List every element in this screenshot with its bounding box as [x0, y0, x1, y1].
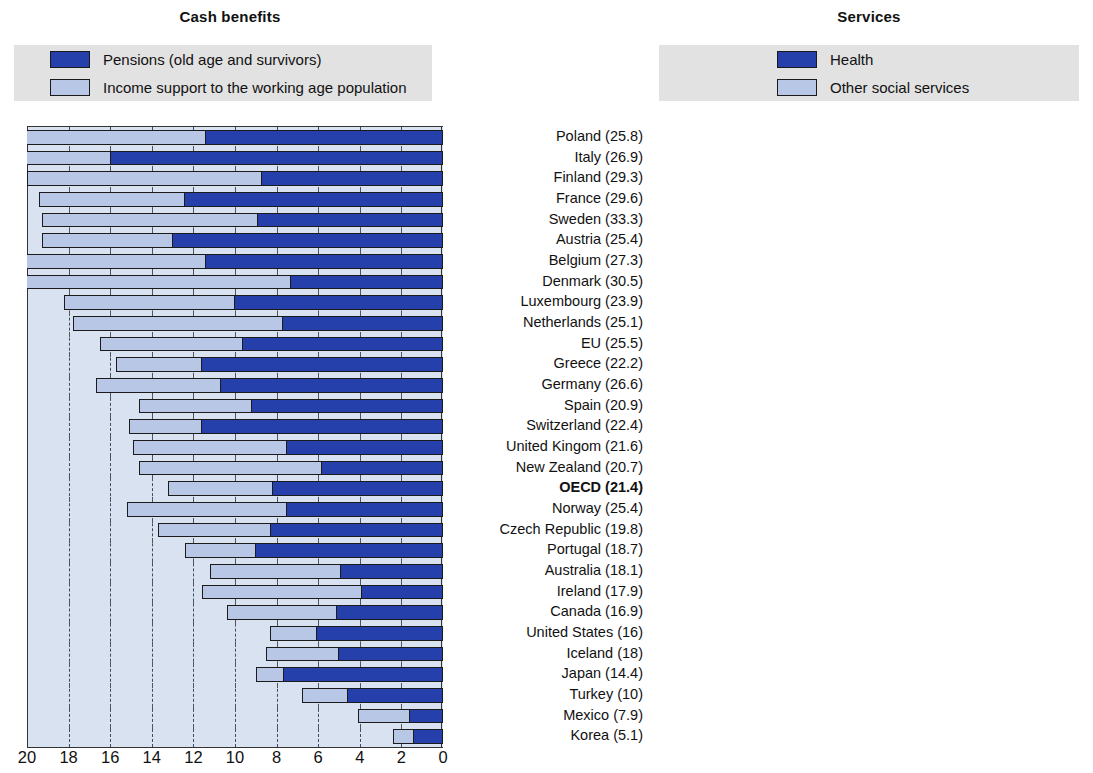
- bar-segment-income-support: [211, 565, 341, 578]
- stacked-bar[interactable]: [210, 564, 443, 579]
- stacked-bar[interactable]: [116, 357, 443, 372]
- cash-benefits-x-axis: 20181614121086420: [27, 748, 443, 773]
- country-label: Canada (16.9): [460, 601, 643, 622]
- stacked-bar[interactable]: [100, 337, 443, 352]
- stacked-bar[interactable]: [185, 543, 443, 558]
- axis-tick-mark: [110, 166, 111, 171]
- axis-tick-mark: [152, 724, 153, 729]
- axis-tick-mark: [318, 187, 319, 192]
- stacked-bar[interactable]: [202, 585, 443, 600]
- axis-tick-mark: [193, 332, 194, 337]
- axis-tick-mark: [193, 559, 194, 564]
- chart-row: [27, 664, 443, 685]
- axis-tick-mark: [110, 228, 111, 233]
- axis-tick-mark: [193, 456, 194, 461]
- stacked-bar[interactable]: [270, 626, 443, 641]
- axis-tick-mark: [235, 456, 236, 461]
- stacked-bar[interactable]: [266, 647, 443, 662]
- axis-tick-mark: [401, 146, 402, 151]
- stacked-bar[interactable]: [27, 254, 443, 269]
- axis-tick-mark: [360, 394, 361, 399]
- stacked-bar[interactable]: [133, 440, 443, 455]
- stacked-bar[interactable]: [256, 667, 443, 682]
- chart-row: [27, 375, 443, 396]
- cash-benefits-panel: Cash benefits Pensions (old age and surv…: [0, 0, 460, 773]
- stacked-bar[interactable]: [158, 523, 443, 538]
- axis-tick-mark: [235, 332, 236, 337]
- axis-tick-mark: [360, 704, 361, 709]
- axis-tick-mark: [318, 166, 319, 171]
- axis-tick-mark: [318, 270, 319, 275]
- axis-tick-mark: [401, 600, 402, 605]
- axis-tick-mark: [360, 600, 361, 605]
- axis-tick-mark: [152, 476, 153, 481]
- axis-tick-mark: [110, 394, 111, 399]
- axis-tick-mark: [318, 249, 319, 254]
- stacked-bar[interactable]: [96, 378, 443, 393]
- bar-segment-income-support: [134, 441, 287, 454]
- stacked-bar[interactable]: [227, 605, 443, 620]
- axis-tick-mark: [401, 270, 402, 275]
- chart-row: [27, 313, 443, 334]
- axis-tick-mark: [277, 270, 278, 275]
- axis-tick-mark: [152, 600, 153, 605]
- stacked-bar[interactable]: [27, 151, 443, 166]
- stacked-bar[interactable]: [129, 419, 443, 434]
- stacked-bar[interactable]: [64, 295, 443, 310]
- country-label: Finland (29.3): [460, 167, 643, 188]
- axis-tick-mark: [360, 187, 361, 192]
- stacked-bar[interactable]: [302, 688, 443, 703]
- axis-tick-mark: [110, 146, 111, 151]
- axis-tick-mark: [110, 249, 111, 254]
- axis-tick-mark: [69, 394, 70, 399]
- stacked-bar[interactable]: [42, 213, 443, 228]
- bar-segment-pensions: [202, 358, 442, 371]
- stacked-bar[interactable]: [73, 316, 443, 331]
- stacked-bar[interactable]: [139, 461, 443, 476]
- axis-tick-mark: [235, 208, 236, 213]
- axis-tick-mark: [110, 662, 111, 667]
- bar-segment-pensions: [317, 627, 442, 640]
- axis-tick-mark: [152, 146, 153, 151]
- axis-tick-mark: [318, 414, 319, 419]
- axis-tick-mark: [110, 332, 111, 337]
- stacked-bar[interactable]: [139, 399, 443, 414]
- axis-tick-mark: [110, 373, 111, 378]
- axis-tick-mark: [277, 311, 278, 316]
- stacked-bar[interactable]: [27, 130, 443, 145]
- stacked-bar[interactable]: [127, 502, 443, 517]
- country-label: Greece (22.2): [460, 353, 643, 374]
- chart-row: [27, 272, 443, 293]
- country-label: United States (16): [460, 622, 643, 643]
- country-label: Czech Republic (19.8): [460, 519, 643, 540]
- axis-tick-mark: [235, 228, 236, 233]
- stacked-bar[interactable]: [168, 481, 443, 496]
- stacked-bar[interactable]: [358, 709, 443, 724]
- axis-tick-mark: [401, 580, 402, 585]
- axis-tick-mark: [235, 704, 236, 709]
- bar-segment-pensions: [291, 276, 442, 289]
- axis-tick-label: 12: [184, 748, 202, 767]
- axis-tick-mark: [360, 538, 361, 543]
- country-label: United Kingom (21.6): [460, 436, 643, 457]
- axis-tick-mark: [360, 146, 361, 151]
- stacked-bar[interactable]: [27, 171, 443, 186]
- country-label: Sweden (33.3): [460, 209, 643, 230]
- country-list: Poland (25.8)Italy (26.9)Finland (29.3)F…: [460, 126, 655, 746]
- axis-tick-mark: [152, 518, 153, 523]
- axis-tick-mark: [110, 642, 111, 647]
- stacked-bar[interactable]: [27, 275, 443, 290]
- stacked-bar[interactable]: [39, 192, 443, 207]
- axis-tick-mark: [360, 724, 361, 729]
- axis-tick-mark: [360, 642, 361, 647]
- bar-segment-income-support: [186, 544, 256, 557]
- bar-segment-pensions: [206, 255, 442, 268]
- stacked-bar[interactable]: [42, 233, 443, 248]
- axis-tick-mark: [235, 683, 236, 688]
- axis-tick-mark: [318, 642, 319, 647]
- stacked-bar[interactable]: [393, 729, 443, 744]
- chart-row: [27, 251, 443, 272]
- bar-segment-pensions: [206, 131, 442, 144]
- axis-tick-mark: [360, 518, 361, 523]
- axis-tick-mark: [152, 497, 153, 502]
